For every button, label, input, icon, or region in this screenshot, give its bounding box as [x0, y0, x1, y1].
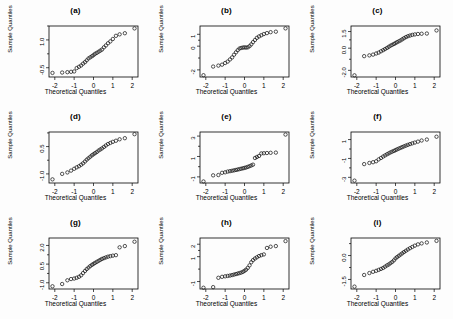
svg-text:2: 2 — [281, 188, 285, 195]
svg-text:1.0: 1.0 — [39, 37, 45, 46]
svg-text:1: 1 — [262, 188, 266, 195]
qq-plot-canvas: -2-1012-1.00.52.0 — [0, 212, 151, 318]
svg-text:2: 2 — [130, 82, 134, 89]
svg-text:3: 3 — [190, 136, 196, 140]
svg-text:-2: -2 — [354, 188, 360, 195]
svg-text:-2.0: -2.0 — [341, 67, 347, 78]
svg-text:-2: -2 — [52, 188, 58, 195]
svg-text:0.5: 0.5 — [39, 261, 45, 270]
qq-panel: (d)Sample QuantilesTheoretical Quantiles… — [0, 106, 151, 212]
svg-text:0: 0 — [243, 82, 247, 89]
svg-text:-2: -2 — [190, 69, 196, 75]
svg-text:-1: -1 — [71, 294, 77, 301]
svg-text:0: 0 — [190, 46, 196, 50]
svg-text:-2: -2 — [203, 82, 209, 89]
svg-text:1: 1 — [111, 294, 115, 301]
qq-plot-canvas: -2-1012-201 — [151, 0, 302, 106]
svg-text:1: 1 — [190, 256, 196, 260]
svg-text:2: 2 — [281, 82, 285, 89]
svg-text:0.5: 0.5 — [39, 144, 45, 153]
svg-text:-1.5: -1.5 — [341, 276, 347, 287]
svg-text:1: 1 — [111, 188, 115, 195]
svg-text:-1.0: -1.0 — [39, 279, 45, 290]
qq-panel: (e)Sample QuantilesTheoretical Quantiles… — [151, 106, 302, 212]
svg-text:0: 0 — [394, 188, 398, 195]
svg-text:-1: -1 — [341, 157, 347, 163]
svg-text:1: 1 — [262, 82, 266, 89]
svg-text:1: 1 — [413, 188, 417, 195]
svg-text:2: 2 — [432, 82, 436, 89]
qq-plot-canvas: -2-1012-113 — [151, 106, 302, 212]
svg-text:1: 1 — [413, 294, 417, 301]
svg-text:2: 2 — [281, 294, 285, 301]
svg-text:1.5: 1.5 — [341, 29, 347, 38]
svg-text:1: 1 — [262, 294, 266, 301]
svg-text:-2: -2 — [52, 294, 58, 301]
svg-text:0: 0 — [394, 82, 398, 89]
svg-text:0: 0 — [394, 294, 398, 301]
svg-text:-1: -1 — [373, 82, 379, 89]
qq-panel: (b)Sample QuantilesTheoretical Quantiles… — [151, 0, 302, 106]
qq-panel: (f)Sample QuantilesTheoretical Quantiles… — [302, 106, 453, 212]
svg-text:2: 2 — [432, 188, 436, 195]
svg-text:1: 1 — [413, 82, 417, 89]
svg-text:-1: -1 — [190, 176, 196, 182]
qq-panel: (a)Sample QuantilesTheoretical Quantiles… — [0, 0, 151, 106]
svg-text:0: 0 — [92, 294, 96, 301]
svg-text:-2: -2 — [52, 82, 58, 89]
qq-panel: (h)Sample QuantilesTheoretical Quantiles… — [151, 212, 302, 318]
svg-text:0: 0 — [92, 82, 96, 89]
svg-text:0: 0 — [92, 188, 96, 195]
svg-text:-1: -1 — [373, 188, 379, 195]
svg-text:-2: -2 — [203, 188, 209, 195]
svg-text:-1: -1 — [71, 188, 77, 195]
svg-text:0: 0 — [243, 188, 247, 195]
svg-text:0.0: 0.0 — [341, 253, 347, 262]
svg-text:2: 2 — [432, 294, 436, 301]
svg-text:-1: -1 — [71, 82, 77, 89]
svg-text:2: 2 — [130, 294, 134, 301]
svg-text:-1.0: -1.0 — [39, 170, 45, 181]
svg-text:2.0: 2.0 — [39, 243, 45, 252]
qq-plot-canvas: -2-1012-1.50.0 — [302, 212, 453, 318]
svg-text:-1: -1 — [222, 294, 228, 301]
qq-plot-grid: (a)Sample QuantilesTheoretical Quantiles… — [0, 0, 453, 319]
svg-text:0.0: 0.0 — [341, 45, 347, 54]
qq-plot-canvas: -2-1012-1.00.5 — [0, 106, 151, 212]
qq-panel: (g)Sample QuantilesTheoretical Quantiles… — [0, 212, 151, 318]
svg-text:-2: -2 — [354, 82, 360, 89]
svg-text:-1: -1 — [373, 294, 379, 301]
qq-panel: (c)Sample QuantilesTheoretical Quantiles… — [302, 0, 453, 106]
svg-text:-1: -1 — [190, 280, 196, 286]
svg-text:-2: -2 — [203, 294, 209, 301]
svg-text:1: 1 — [190, 34, 196, 38]
svg-text:1: 1 — [111, 82, 115, 89]
svg-text:-3: -3 — [341, 176, 347, 182]
svg-text:-0.5: -0.5 — [39, 64, 45, 75]
qq-plot-canvas: -2-1012-112 — [151, 212, 302, 318]
svg-text:1: 1 — [190, 156, 196, 160]
svg-text:-1: -1 — [222, 188, 228, 195]
qq-plot-canvas: -2-1012-0.51.0 — [0, 0, 151, 106]
qq-plot-canvas: -2-1012-2.00.01.5 — [302, 0, 453, 106]
svg-text:2: 2 — [130, 188, 134, 195]
qq-panel: (i)Sample QuantilesTheoretical Quantiles… — [302, 212, 453, 318]
qq-plot-canvas: -2-1012-3-11 — [302, 106, 453, 212]
svg-text:2: 2 — [190, 244, 196, 248]
svg-text:1: 1 — [341, 139, 347, 143]
svg-text:-1: -1 — [222, 82, 228, 89]
svg-text:-2: -2 — [354, 294, 360, 301]
svg-text:0: 0 — [243, 294, 247, 301]
